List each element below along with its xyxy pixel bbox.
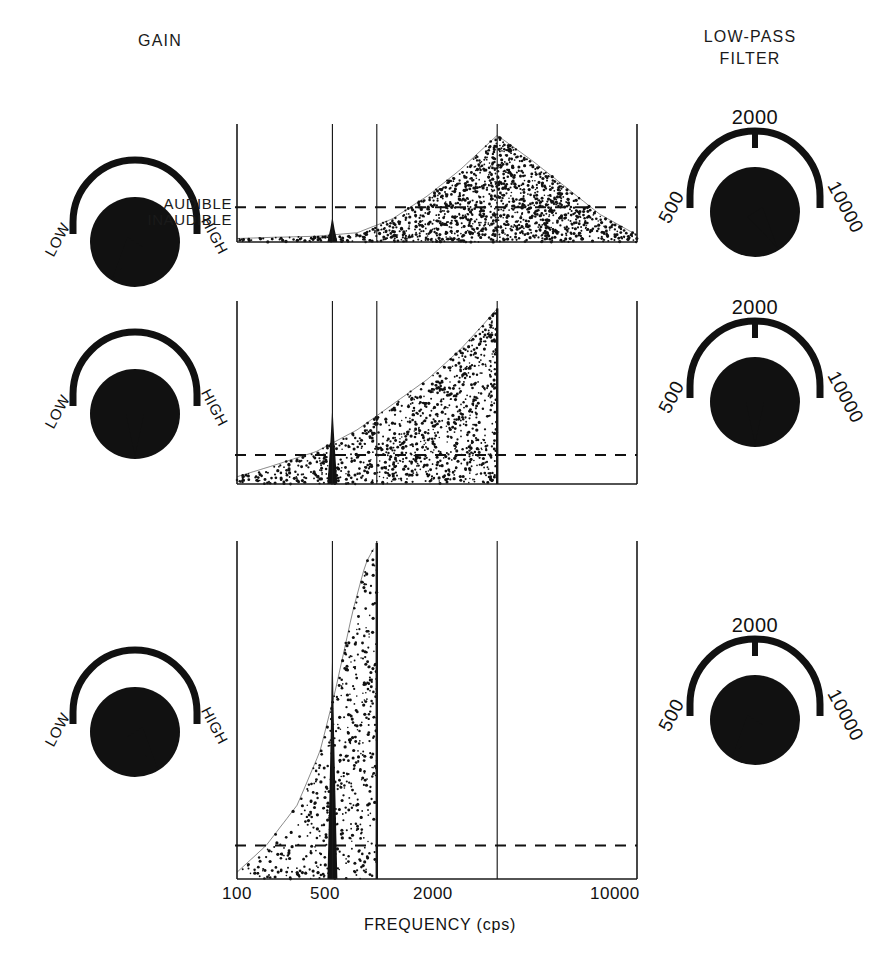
gain-knob-row-2[interactable]: LOW HIGH [30, 302, 240, 442]
gain-knob-3-svg[interactable]: LOW HIGH [30, 620, 240, 760]
filter-knob-3-svg[interactable]: 2000 500 10000 [650, 608, 860, 748]
gain-knob-2-min-label: LOW [41, 391, 73, 431]
filter-knob-2-min-label: 500 [654, 377, 688, 416]
filter-knob-1-min-label: 500 [654, 187, 688, 226]
filter-title-line-1: LOW-PASS [650, 26, 850, 48]
gain-knob-3-min-label: LOW [41, 709, 73, 749]
spectrum-panel-2-svg [225, 295, 655, 490]
audible-label: AUDIBLE [120, 196, 232, 212]
gain-knob-2-body[interactable] [90, 369, 180, 459]
spectrum-panel-1 [225, 118, 655, 248]
filter-knob-2-svg[interactable]: 2000 500 10000 [650, 290, 860, 430]
gain-knob-3-body[interactable] [90, 687, 180, 777]
x-tick-0: 100 [222, 884, 252, 904]
spectrum-panel-1-svg [225, 118, 655, 248]
filter-title-line-2: FILTER [650, 48, 850, 70]
filter-knob-2-mid-label: 2000 [732, 296, 779, 318]
filter-knob-1-max-label: 10000 [823, 178, 868, 237]
spectrum-panel-3-svg [225, 535, 655, 885]
filter-knob-row-2[interactable]: 2000 500 10000 [650, 290, 860, 430]
gain-column-title: GAIN [60, 32, 260, 50]
x-tick-1: 500 [310, 884, 340, 904]
gain-knob-1-min-label: LOW [41, 219, 73, 259]
filter-knob-3-max-label: 10000 [823, 686, 868, 745]
gain-knob-2-svg[interactable]: LOW HIGH [30, 302, 240, 442]
filter-knob-3-mid-label: 2000 [732, 614, 779, 636]
gain-knob-row-3[interactable]: LOW HIGH [30, 620, 240, 760]
filter-knob-2-body[interactable] [710, 357, 800, 447]
spectrum-panel-3 [225, 535, 655, 885]
filter-knob-2-max-label: 10000 [823, 368, 868, 427]
x-axis-title: FREQUENCY (cps) [240, 916, 640, 934]
filter-knob-3-body[interactable] [710, 675, 800, 765]
x-tick-3: 10000 [590, 884, 640, 904]
filter-knob-3-min-label: 500 [654, 695, 688, 734]
spectrum-panel-2 [225, 295, 655, 490]
filter-knob-1-mid-label: 2000 [732, 106, 779, 128]
filter-knob-1-body[interactable] [710, 167, 800, 257]
x-axis-tick-labels: 100 500 2000 10000 [225, 884, 655, 910]
figure-root: GAIN LOW-PASS FILTER LOW HIGH LOW HIGH [0, 0, 880, 970]
inaudible-label: INAUDIBLE [120, 212, 232, 228]
filter-column-title: LOW-PASS FILTER [650, 26, 850, 69]
filter-knob-1-svg[interactable]: 2000 500 10000 [650, 100, 860, 240]
filter-knob-row-1[interactable]: 2000 500 10000 [650, 100, 860, 240]
x-tick-2: 2000 [413, 884, 453, 904]
filter-knob-row-3[interactable]: 2000 500 10000 [650, 608, 860, 748]
threshold-legend: AUDIBLE INAUDIBLE [120, 196, 232, 228]
